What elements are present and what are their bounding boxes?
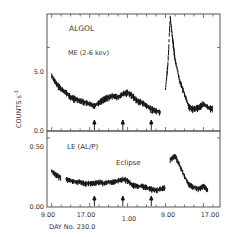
eclipse-label: Eclipse	[116, 159, 141, 167]
xtick-label-9b: 9.00	[161, 211, 175, 219]
lower-ytick-050: 0.50	[30, 143, 44, 151]
upper-ytick-5: 5.0	[34, 68, 44, 76]
xtick-label-17b: 17.00	[201, 211, 220, 219]
upper-ytick-0: 0.0	[34, 127, 44, 135]
x-axis-label: DAY No. 230.0	[49, 223, 95, 231]
y-axis-label: COUNTS s-1	[13, 90, 23, 128]
xtick-label-17: 17.00	[77, 211, 96, 219]
xtick-label-1: 1.00	[122, 215, 136, 223]
upper-band-label: ME (2-6 kev)	[68, 49, 109, 57]
light-curve-figure: ALGOL ME (2-6 kev) LE (AL/P) Eclipse 5.0…	[0, 0, 250, 237]
source-label: ALGOL	[69, 24, 95, 33]
lower-band-label: LE (AL/P)	[67, 143, 99, 151]
lower-ytick-000: 0.00	[30, 203, 44, 211]
xtick-label-9: 9.00	[41, 211, 55, 219]
